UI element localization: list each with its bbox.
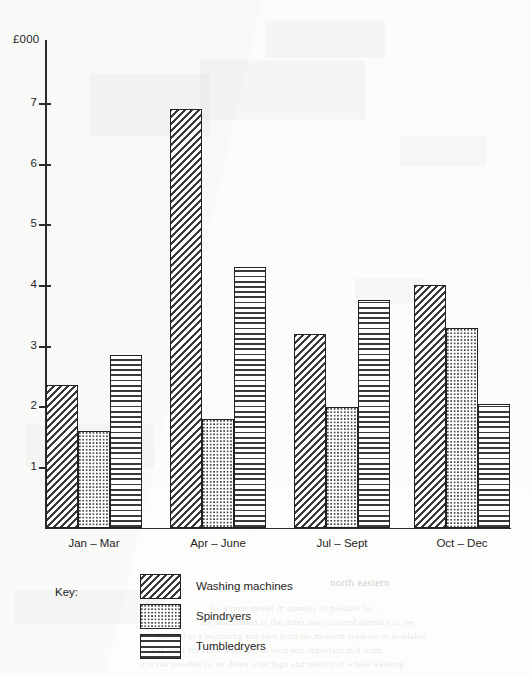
legend-swatch-diagonal-hatch-icon <box>140 574 181 599</box>
bar-chart: £000 7 6 5 4 3 2 1 Jan – Mar Apr – June … <box>0 0 530 676</box>
bar-tumbledryers-jan-mar <box>110 355 142 528</box>
bleed-through-text: national in a beginning and earn from th… <box>155 631 426 641</box>
y-tick-label-7: 7 <box>3 97 37 109</box>
y-tick-label-1: 1 <box>3 461 37 473</box>
y-tick-3 <box>39 346 51 348</box>
bar-spindryers-oct-dec <box>446 328 478 528</box>
y-tick-label-3: 3 <box>3 340 37 352</box>
bar-spindryers-apr-june <box>202 419 234 528</box>
x-label-oct-dec: Oct – Dec <box>402 537 522 549</box>
y-tick-4 <box>39 285 51 287</box>
y-axis-title: £000 <box>13 33 39 45</box>
legend-title: Key: <box>55 586 78 598</box>
bar-tumbledryers-oct-dec <box>478 404 510 528</box>
bar-washing-machines-oct-dec <box>414 285 446 528</box>
bleed-through-text: a of the 1 the chief receivers of food a… <box>150 645 382 655</box>
bar-tumbledryers-jul-sept <box>358 300 390 528</box>
bar-tumbledryers-apr-june <box>234 267 266 528</box>
bar-spindryers-jan-mar <box>78 431 110 528</box>
y-tick-label-2: 2 <box>3 400 37 412</box>
y-tick-5 <box>39 224 51 226</box>
bleed-through-text: the distribution of the index has occurr… <box>200 617 414 627</box>
legend-swatch-dotted-stipple-icon <box>140 604 181 629</box>
x-label-apr-june: Apr – June <box>158 537 278 549</box>
bar-washing-machines-apr-june <box>170 109 202 528</box>
bleed-through-text: north eastern <box>330 576 390 588</box>
bar-washing-machines-jan-mar <box>46 385 78 528</box>
x-label-jul-sept: Jul – Sept <box>282 537 402 549</box>
legend-label-washing-machines: Washing machines <box>196 580 293 592</box>
y-tick-label-6: 6 <box>3 158 37 170</box>
bar-washing-machines-jul-sept <box>294 334 326 528</box>
y-tick-label-5: 5 <box>3 218 37 230</box>
x-label-jan-mar: Jan – Mar <box>34 537 154 549</box>
bleed-through-text: it is not possible to set down what high… <box>140 659 404 669</box>
bar-spindryers-jul-sept <box>326 407 358 528</box>
y-tick-label-4: 4 <box>3 279 37 291</box>
y-tick-6 <box>39 164 51 166</box>
y-tick-7 <box>39 103 51 105</box>
bleed-through-text: for a time spread in quantity of produce… <box>210 603 382 613</box>
